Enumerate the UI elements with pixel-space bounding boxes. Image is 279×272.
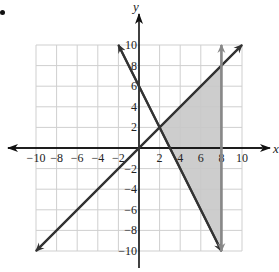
svg-text:−8: −8: [50, 151, 63, 165]
svg-text:−2: −2: [124, 162, 137, 176]
coordinate-plane: −10−8−6−4−2246810108642−2−4−6−8−10 x y: [0, 0, 279, 272]
svg-text:2: 2: [157, 151, 163, 165]
y-axis-label: y: [131, 0, 139, 14]
x-axis-label: x: [272, 141, 279, 156]
svg-text:6: 6: [198, 151, 204, 165]
svg-text:−4: −4: [91, 151, 104, 165]
svg-text:−4: −4: [124, 182, 137, 196]
svg-text:10: 10: [236, 151, 248, 165]
svg-text:−8: −8: [124, 223, 137, 237]
svg-text:−10: −10: [27, 151, 46, 165]
svg-text:−10: −10: [118, 244, 137, 258]
svg-text:−6: −6: [124, 203, 137, 217]
svg-text:4: 4: [131, 100, 137, 114]
svg-text:−6: −6: [71, 151, 84, 165]
svg-text:10: 10: [125, 38, 137, 52]
svg-text:2: 2: [131, 120, 137, 134]
shaded-region: [160, 66, 222, 251]
